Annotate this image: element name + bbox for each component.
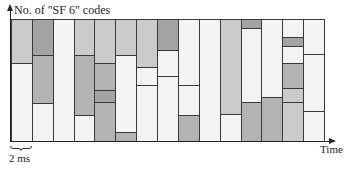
time-slot-column bbox=[32, 19, 54, 141]
code-segment bbox=[136, 85, 158, 142]
code-segment bbox=[94, 63, 116, 91]
time-slot-column bbox=[220, 19, 242, 141]
time-slot-column bbox=[303, 19, 325, 141]
code-segment bbox=[282, 19, 304, 38]
code-segment bbox=[303, 54, 325, 112]
time-slot-column bbox=[282, 19, 304, 141]
time-slot-column bbox=[11, 19, 33, 141]
code-segment bbox=[199, 19, 221, 142]
time-slot-column bbox=[53, 19, 75, 141]
code-segment bbox=[74, 55, 96, 116]
chart-frame bbox=[11, 19, 324, 141]
time-slot-column bbox=[178, 19, 200, 141]
code-segment bbox=[32, 103, 54, 142]
code-segment bbox=[94, 102, 116, 142]
code-segment bbox=[136, 19, 158, 68]
time-slot-column bbox=[241, 19, 263, 141]
code-segment bbox=[11, 19, 33, 64]
time-slot-column bbox=[199, 19, 221, 141]
code-segment bbox=[178, 115, 200, 142]
time-slot-column bbox=[136, 19, 158, 141]
x-axis-line bbox=[10, 141, 330, 142]
code-segment bbox=[74, 115, 96, 142]
code-segment bbox=[178, 85, 200, 116]
time-slot-column bbox=[74, 19, 96, 141]
code-segment bbox=[53, 19, 75, 142]
scale-bar-label: 2 ms bbox=[9, 152, 30, 164]
code-segment bbox=[282, 88, 304, 103]
code-segment bbox=[282, 46, 304, 64]
code-segment bbox=[261, 19, 283, 98]
code-segment bbox=[115, 19, 137, 56]
code-segment bbox=[241, 102, 263, 142]
code-segment bbox=[157, 50, 179, 77]
code-segment bbox=[303, 111, 325, 142]
code-segment bbox=[11, 63, 33, 142]
code-segment bbox=[220, 114, 242, 142]
x-axis-label: Time bbox=[320, 143, 343, 155]
code-segment bbox=[74, 19, 96, 56]
code-segment bbox=[157, 19, 179, 51]
time-slot-column bbox=[115, 19, 137, 141]
code-segment bbox=[115, 55, 137, 133]
code-segment bbox=[32, 55, 54, 104]
time-slot-column bbox=[261, 19, 283, 141]
code-segment bbox=[241, 28, 263, 103]
time-slot-column bbox=[157, 19, 179, 141]
time-slot-column bbox=[94, 19, 116, 141]
code-segment bbox=[94, 19, 116, 64]
y-axis-label: No. of "SF 6" codes bbox=[14, 3, 110, 18]
code-segment bbox=[32, 19, 54, 56]
code-segment bbox=[282, 102, 304, 142]
code-segment bbox=[303, 19, 325, 55]
code-segment bbox=[261, 97, 283, 142]
code-segment bbox=[136, 67, 158, 86]
code-segment bbox=[282, 63, 304, 89]
code-segment bbox=[157, 76, 179, 142]
brace-icon bbox=[10, 146, 32, 151]
code-segment bbox=[220, 19, 242, 115]
code-segment bbox=[178, 19, 200, 86]
